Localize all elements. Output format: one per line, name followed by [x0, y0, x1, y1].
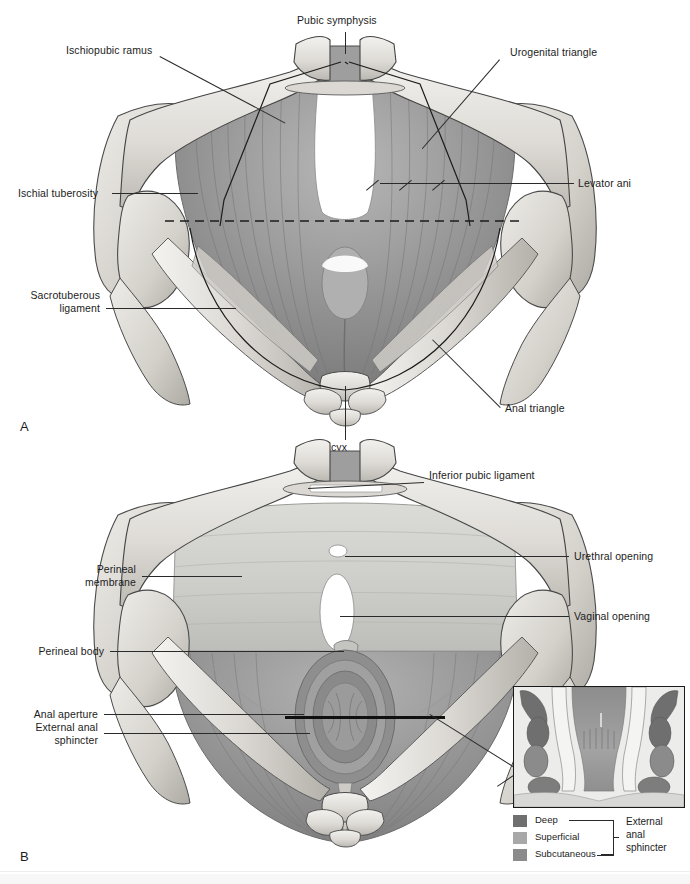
legend-swatch-superficial: [513, 832, 527, 844]
leader-urethral-opening: [345, 556, 569, 557]
inset-anal-canal-section: [513, 686, 685, 808]
label-perineal-membrane: Perineal membrane: [0, 563, 136, 588]
leader-coccyx: [345, 386, 346, 440]
leader-levator-ani-stem: [380, 183, 514, 184]
legend-bracket-label: External anal sphincter: [626, 815, 667, 854]
figure-page: Pubic symphysis Ischiopubic ramus Urogen…: [0, 0, 690, 884]
legend-swatch-deep: [513, 815, 527, 827]
pubic-symphysis-bone-b: [328, 451, 362, 485]
legend-label-deep: Deep: [535, 814, 558, 825]
leader-ischial-tuberosity: [112, 193, 198, 194]
label-perineal-body: Perineal body: [0, 645, 104, 658]
label-levator-ani: Levator ani: [578, 177, 631, 190]
bottom-bar: [0, 874, 690, 884]
label-vaginal-opening: Vaginal opening: [574, 610, 650, 623]
legend-swatch-subcutaneous: [513, 849, 527, 861]
legend-bracket-tick: [613, 837, 619, 838]
leader-external-anal-sphincter: [104, 733, 310, 734]
vaginal-opening-shape: [320, 574, 354, 650]
inset-legend: Deep Superficial Subcutaneous External a…: [513, 813, 688, 864]
leader-inset-pointer-bar: [285, 716, 445, 719]
arcuate-pubic-ligament: [285, 81, 405, 95]
label-sacrotuberous-ligament: Sacrotuberous ligament: [0, 289, 100, 314]
legend-bracket: [597, 820, 614, 856]
label-urethral-opening: Urethral opening: [574, 550, 653, 563]
label-external-anal-sphincter: External anal sphincter: [0, 721, 98, 746]
bottom-hairline: [0, 871, 690, 872]
leader-vaginal-opening: [340, 616, 569, 617]
panel-letter-a: A: [20, 419, 29, 434]
label-ischial-tuberosity: Ischial tuberosity: [18, 187, 98, 200]
label-anal-aperture: Anal aperture: [0, 708, 98, 721]
leader-perineal-body: [110, 651, 344, 652]
label-pubic-symphysis: Pubic symphysis: [297, 14, 377, 27]
leader-perineal-membrane: [142, 576, 242, 577]
label-anal-triangle: Anal triangle: [505, 402, 565, 415]
leader-sacrotuberous: [106, 308, 236, 309]
legend-label-superficial: Superficial: [535, 831, 579, 842]
panel-letter-b: B: [20, 849, 29, 864]
superficial-sphincter-right: [650, 745, 674, 777]
urogenital-hiatus: [315, 86, 376, 220]
leader-levator-ani: [512, 183, 574, 184]
label-ischiopubic-ramus: Ischiopubic ramus: [66, 44, 152, 57]
label-urogenital-triangle: Urogenital triangle: [510, 46, 597, 59]
legend-label-subcutaneous: Subcutaneous: [535, 848, 596, 859]
label-inferior-pubic-ligament: Inferior pubic ligament: [429, 469, 535, 482]
superficial-sphincter-left: [524, 745, 548, 777]
leader-pubic-symphysis: [345, 32, 346, 54]
leader-anal-aperture: [104, 714, 304, 715]
